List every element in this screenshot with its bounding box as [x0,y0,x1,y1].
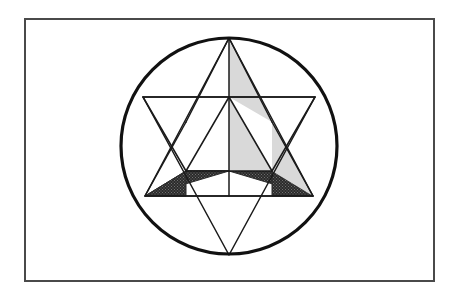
figure-canvas [0,0,459,296]
geometric-figure-svg [0,0,459,296]
